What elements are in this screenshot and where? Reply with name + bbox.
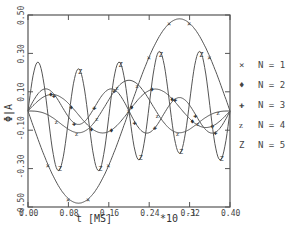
series-marker: Z [199,51,203,59]
y-tick-label: 0.10 [17,82,26,101]
y-tick-label: -0.10 [17,116,26,140]
series-marker: × [167,20,171,28]
series-marker: ♦ [130,104,134,112]
legend: ×N = 1♦N = 2✚N = 3ᴢN = 4ZN = 5 [239,60,285,150]
series-marker: ✚ [92,104,96,112]
legend-label: N = 4 [258,120,285,130]
y-tick-label: -0.30 [17,154,26,178]
series-marker: Z [159,51,163,59]
y-tick-label: -0.50 [17,193,26,217]
series-marker: × [147,54,151,62]
series-marker: Z [98,165,102,173]
legend-marker-icon: × [239,60,244,70]
series-marker: Z [58,165,62,173]
series-marker: Z [219,155,223,163]
legend-marker-icon: ✚ [239,100,245,110]
series-marker: ✚ [133,119,137,127]
x-tick-label: 0.24 [140,209,159,218]
chart: ×××××××××♦♦♦♦♦♦♦♦♦✚✚✚✚✚✚✚✚✚ᴢᴢᴢᴢᴢᴢᴢᴢᴢZZZZ… [0,0,288,228]
series-marker: Z [179,148,183,156]
series-marker: ᴢ [176,130,179,138]
y-tick-label: 0.50 [17,6,26,25]
series-line-n5 [28,51,230,170]
y-axis-ticks: 0.500.300.10-0.10-0.30-0.50 [17,6,230,217]
legend-label: N = 5 [258,140,285,150]
series-marker: ᴢ [216,109,219,117]
series-marker: ᴢ [136,82,139,90]
legend-label: N = 3 [258,100,285,110]
y-tick-label: 0.30 [17,44,26,63]
series-marker: × [106,162,110,170]
series-marker: ᴢ [156,112,159,120]
series-marker: × [86,196,90,204]
series-marker: ✚ [153,124,157,132]
series-marker: ᴢ [95,115,98,123]
x-axis-label: t [MS] [76,213,112,224]
series-marker: × [46,162,50,170]
series-marker: ✚ [173,96,177,104]
legend-marker-icon: ♦ [239,80,244,90]
series-marker: ✚ [72,120,76,128]
plot-curves: ×××××××××♦♦♦♦♦♦♦♦♦✚✚✚✚✚✚✚✚✚ᴢᴢᴢᴢᴢᴢᴢᴢᴢZZZZ… [28,19,230,204]
legend-marker-icon: ᴢ [239,120,243,130]
series-marker: Z [78,68,82,76]
series-marker: Z [139,154,143,162]
x-axis-multiplier: *10 [160,213,178,224]
legend-label: N = 1 [258,60,285,70]
legend-label: N = 2 [258,80,285,90]
legend-marker-icon: Z [239,140,245,150]
series-marker: × [207,54,211,62]
series-marker: ᴢ [115,84,118,92]
x-axis-multiplier-exponent: -1 [186,209,196,218]
y-axis-label: Φ|A [3,104,15,122]
series-marker: × [187,20,191,28]
series-marker: ᴢ [75,130,78,138]
x-tick-label: 0.40 [221,209,240,218]
series-marker: ✚ [52,92,56,100]
series-marker: ᴢ [55,118,58,126]
series-marker: ♦ [109,127,113,135]
series-marker: ᴢ [196,120,199,128]
series-marker: Z [118,61,122,69]
